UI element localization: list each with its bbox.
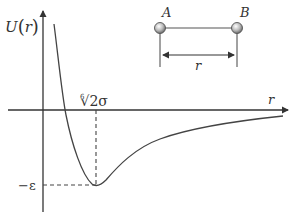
atom-a: [155, 23, 166, 34]
min-energy-label: −ε: [18, 178, 36, 193]
zero-crossing-label: 6√2σ: [80, 93, 108, 109]
x-axis-label: r: [268, 92, 275, 107]
atom-b: [232, 23, 243, 34]
atom-a-label: A: [161, 5, 171, 20]
separation-label: r: [195, 58, 202, 73]
atom-pair-inset: A B r: [155, 5, 250, 73]
potential-energy-diagram: U(r) r 6√2σ −ε A B r: [0, 0, 292, 218]
y-axis-label: U(r): [5, 16, 39, 37]
atom-b-label: B: [239, 5, 250, 20]
